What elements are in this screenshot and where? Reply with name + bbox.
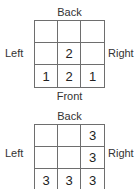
grid-cell: 3 [81, 169, 104, 189]
back-label: Back [34, 110, 105, 122]
grid-cell: 2 [58, 65, 81, 87]
grid-cell [81, 21, 104, 43]
top-view-diagram-2: Back Left Right 3 3 3 3 3 [0, 104, 137, 189]
grid-cell: 3 [35, 169, 58, 189]
cube-count-grid: 3 3 3 3 3 [34, 124, 105, 189]
grid-cell: 3 [81, 147, 104, 169]
grid-cell [35, 21, 58, 43]
grid-cell [81, 43, 104, 65]
left-label: Left [5, 147, 23, 159]
grid-cell: 3 [58, 169, 81, 189]
right-label: Right [108, 147, 134, 159]
grid-cell [58, 125, 81, 147]
grid-cell [58, 147, 81, 169]
grid-cell: 3 [81, 125, 104, 147]
right-label: Right [108, 47, 134, 59]
front-label: Front [34, 90, 105, 102]
cube-count-grid: 2 1 2 1 [34, 20, 105, 88]
grid-cell: 2 [58, 43, 81, 65]
left-label: Left [5, 47, 23, 59]
grid-cell: 1 [35, 65, 58, 87]
back-label: Back [34, 6, 105, 18]
grid-cell [58, 21, 81, 43]
grid-cell: 1 [81, 65, 104, 87]
grid-cell [35, 43, 58, 65]
top-view-diagram-1: Back Left Right 2 1 2 1 Front [0, 0, 137, 104]
grid-cell [35, 147, 58, 169]
grid-cell [35, 125, 58, 147]
